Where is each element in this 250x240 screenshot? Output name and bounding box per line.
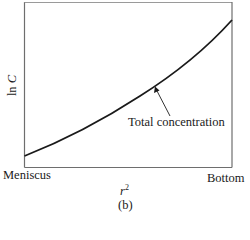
- x-axis-label: r2: [120, 183, 129, 199]
- x-tick-meniscus: Meniscus: [3, 168, 51, 183]
- annotation-label: Total concentration: [128, 115, 225, 130]
- y-axis-label-var: C: [5, 75, 19, 83]
- annotation-arrow-shaft: [157, 90, 171, 116]
- y-axis-label: ln C: [5, 71, 20, 101]
- y-axis-label-ln: ln: [5, 83, 19, 96]
- annotation-arrowhead-icon: [154, 87, 160, 94]
- panel-label: (b): [118, 198, 133, 213]
- x-axis-label-sup: 2: [125, 183, 129, 192]
- total-concentration-curve: [25, 20, 233, 156]
- x-tick-bottom: Bottom: [207, 171, 245, 186]
